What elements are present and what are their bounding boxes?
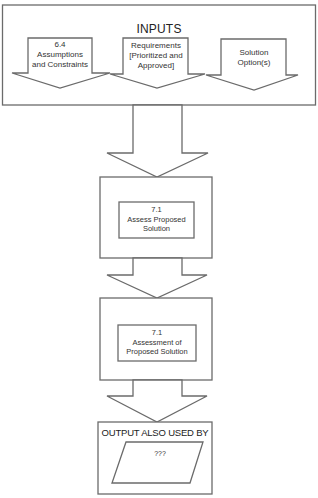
inputs-title: INPUTS bbox=[110, 22, 208, 36]
flow-arrow-1 bbox=[107, 105, 208, 177]
input-label-line: 6.4 bbox=[24, 40, 96, 50]
task-label: 7.1 Assess Proposed Solution bbox=[119, 205, 194, 234]
task-name-line: Solution bbox=[119, 224, 194, 234]
flow-arrow-2 bbox=[107, 258, 207, 298]
input-label-line: Option(s) bbox=[218, 58, 290, 68]
input-label-line: Requirements bbox=[118, 41, 194, 51]
used-by-title: OUTPUT ALSO USED BY bbox=[98, 427, 212, 438]
flow-arrow-3 bbox=[107, 380, 207, 422]
input-label-line: Solution bbox=[218, 48, 290, 58]
used-by-item: ??? bbox=[140, 449, 180, 459]
diagram-canvas bbox=[0, 0, 318, 498]
input-label-line: and Constraints bbox=[24, 60, 96, 70]
output-number: 7.1 bbox=[118, 328, 196, 338]
output-label: 7.1 Assessment of Proposed Solution bbox=[118, 328, 196, 357]
output-name-line: Assessment of bbox=[118, 338, 196, 348]
task-number: 7.1 bbox=[119, 205, 194, 215]
input-label-line: [Prioritized and bbox=[118, 51, 194, 61]
output-name-line: Proposed Solution bbox=[118, 347, 196, 357]
input-label-line: Approved] bbox=[118, 61, 194, 71]
input-label-line: Assumptions bbox=[24, 50, 96, 60]
task-name-line: Assess Proposed bbox=[119, 215, 194, 225]
input-label-requirements: Requirements [Prioritized and Approved] bbox=[118, 41, 194, 71]
input-label-solution-options: Solution Option(s) bbox=[218, 48, 290, 68]
input-label-assumptions: 6.4 Assumptions and Constraints bbox=[24, 40, 96, 70]
